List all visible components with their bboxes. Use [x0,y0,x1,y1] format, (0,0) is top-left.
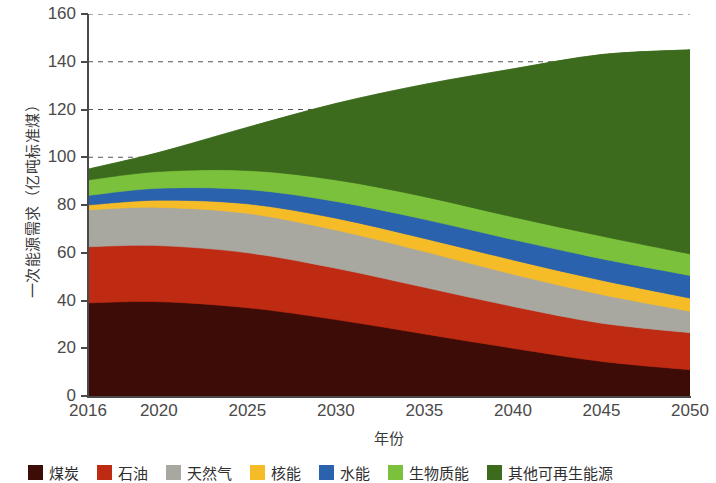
y-tick-label: 120 [32,101,76,118]
y-tick-label: 20 [32,339,76,356]
x-axis-line [87,396,691,398]
x-tick-label: 2050 [655,402,716,419]
y-tick-label: 80 [32,196,76,213]
legend-item[interactable]: 天然气 [166,462,232,483]
legend-swatch-icon [166,465,181,480]
legend-label: 石油 [118,462,148,483]
x-tick-label: 2040 [478,402,548,419]
y-tick-label: 160 [32,5,76,22]
x-axis-title: 年份 [88,427,690,448]
legend-item[interactable]: 生物质能 [388,462,469,483]
legend-item[interactable]: 石油 [97,462,148,483]
legend-swatch-icon [487,465,502,480]
legend-swatch-icon [250,465,265,480]
x-tick-label: 2020 [124,402,194,419]
y-tick-label: 100 [32,148,76,165]
x-tick-label: 2016 [53,402,123,419]
plot-svg [88,14,690,396]
legend-label: 核能 [271,462,301,483]
x-tick-label: 2030 [301,402,371,419]
legend-swatch-icon [319,465,334,480]
legend-item[interactable]: 水能 [319,462,370,483]
x-tick-label: 2045 [566,402,636,419]
legend-label: 其他可再生能源 [508,462,613,483]
legend-label: 煤炭 [49,462,79,483]
x-tick-label: 2025 [212,402,282,419]
y-axis-line [87,14,89,397]
y-tick-label: 140 [32,53,76,70]
legend-item[interactable]: 其他可再生能源 [487,462,613,483]
legend-swatch-icon [388,465,403,480]
legend-label: 生物质能 [409,462,469,483]
legend-item[interactable]: 核能 [250,462,301,483]
y-tick-label: 60 [32,244,76,261]
legend-label: 水能 [340,462,370,483]
legend-swatch-icon [28,465,43,480]
x-tick-label: 2035 [389,402,459,419]
stacked-area-chart: 一次能源需求（亿吨标准煤） 020406080100120140160 2016… [0,0,716,483]
legend-label: 天然气 [187,462,232,483]
plot-area [88,14,690,396]
y-tick-label: 40 [32,292,76,309]
chart-legend: 煤炭石油天然气核能水能生物质能其他可再生能源 [28,462,700,482]
legend-item[interactable]: 煤炭 [28,462,79,483]
legend-swatch-icon [97,465,112,480]
